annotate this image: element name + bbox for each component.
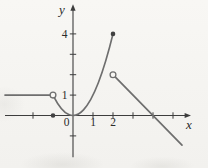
filled-dot-marker bbox=[111, 32, 116, 37]
y-tick-label: 4 bbox=[62, 28, 68, 40]
y-axis-label: y bbox=[57, 2, 65, 17]
x-tick-label: 1 bbox=[90, 116, 96, 128]
open-circle-marker bbox=[110, 72, 116, 78]
graph-canvas: 1214 x y 0 bbox=[0, 0, 208, 168]
y-axis-arrow-icon bbox=[70, 4, 75, 10]
y-tick-label: 1 bbox=[62, 89, 68, 101]
curve-parabola-branch bbox=[54, 34, 113, 116]
plot-layer: 1214 bbox=[5, 4, 191, 157]
x-axis-label: x bbox=[185, 117, 192, 132]
open-circle-marker bbox=[50, 92, 56, 98]
origin-label: 0 bbox=[64, 116, 70, 128]
x-tick-label: 2 bbox=[110, 116, 116, 128]
curve-linear-branch bbox=[115, 77, 182, 145]
filled-dot-marker bbox=[51, 113, 56, 118]
piecewise-function-figure: 1214 x y 0 bbox=[0, 0, 208, 168]
